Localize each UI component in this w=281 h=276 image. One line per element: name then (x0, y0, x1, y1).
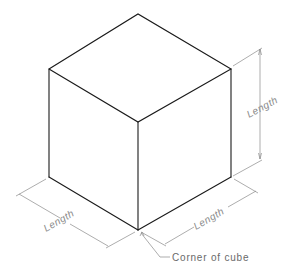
cube-bottom-right-edge (138, 177, 231, 230)
corner-note: Corner of cube (172, 252, 249, 263)
right-dimension: Length (141, 179, 258, 246)
cube (49, 14, 231, 230)
left-dimension: Length (16, 179, 135, 248)
cube-diagram: Length Length Length Corner of cube (0, 0, 281, 276)
height-dimension: Length (233, 48, 280, 176)
cube-top-face (49, 14, 231, 122)
height-dimension-label: Length (245, 94, 280, 119)
left-dimension-label: Length (42, 207, 77, 233)
right-dimension-label: Length (192, 205, 227, 231)
corner-leader: Corner of cube (140, 232, 249, 263)
